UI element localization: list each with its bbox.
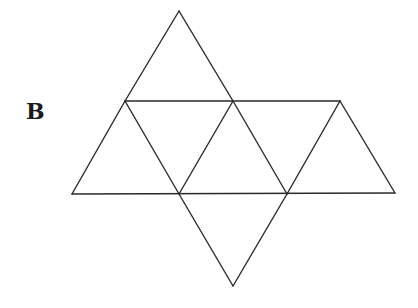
triangle-net-diagram	[0, 0, 418, 308]
edge-bottom-right	[233, 194, 287, 286]
edge-bottom-left	[179, 194, 233, 286]
edge-center-right	[233, 101, 287, 194]
edge-bottom-horizontal	[72, 193, 395, 194]
edge-right-inner	[287, 101, 340, 194]
edge-left-outer	[72, 101, 125, 194]
edge-top-right	[179, 11, 233, 101]
edge-left-inner	[125, 101, 179, 194]
edge-right-outer	[340, 101, 395, 193]
edge-top-left	[125, 11, 179, 101]
edge-center-left	[179, 101, 233, 194]
